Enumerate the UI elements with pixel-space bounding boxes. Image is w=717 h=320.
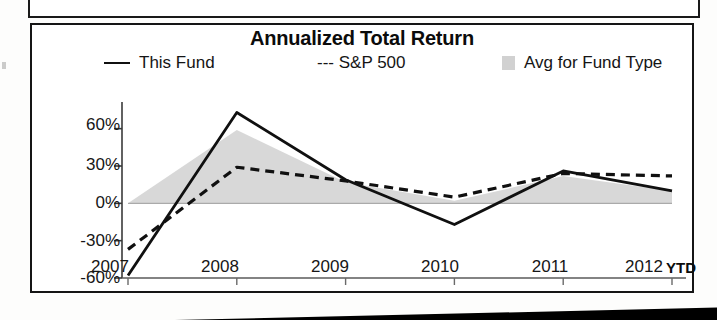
x-tick-label-2011: 2011 [532,257,569,277]
y-axis-tick-labels: 60% 30% 0% -30% -60% [46,25,120,291]
y-tick-label-0: 0% [95,193,120,213]
plot-area: 60% 30% 0% -30% -60% 2007 2008 2009 2010… [32,25,692,291]
x-tick-label-2007: 2007 [91,257,129,277]
x-axis-tick-labels: 2007 2008 2009 2010 2011 2012 [32,257,692,287]
y-tick-label-60: 60% [86,115,120,135]
cut-off-box-above-chart [28,0,700,18]
x-tick-label-2010: 2010 [421,257,459,277]
chart-panel: Annualized Total Return This Fund --- S&… [30,23,694,293]
scan-edge-artifact [0,298,717,320]
scanned-page-background: Annualized Total Return This Fund --- S&… [0,0,717,320]
x-tick-label-2012: 2012 [625,257,663,277]
chart-plot-svg [32,25,692,291]
y-tick-label-30: 30% [86,155,120,175]
y-tick-label-neg30: -30% [80,231,120,251]
x-tick-label-2009: 2009 [311,257,349,277]
x-axis-ytd-note: YTD [666,259,696,276]
x-tick-label-2008: 2008 [201,257,239,277]
scan-speck-artifact [2,62,6,69]
avg-fund-type-area-group [128,130,672,203]
